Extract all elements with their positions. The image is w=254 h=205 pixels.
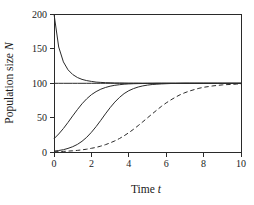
y-tick-label: 50 bbox=[37, 112, 47, 123]
y-tick-label: 100 bbox=[32, 78, 47, 89]
y-axis-title: Population sizeN bbox=[3, 41, 16, 124]
x-tick-label: 10 bbox=[236, 158, 246, 169]
y-tick-label: 150 bbox=[32, 43, 47, 54]
chart-series bbox=[54, 14, 241, 152]
x-axis-title: Timet bbox=[131, 183, 162, 195]
x-tick-label: 8 bbox=[201, 158, 206, 169]
y-axis-title-text: Population size bbox=[3, 53, 16, 124]
population-growth-chart: 050100150200 0246810 Population sizeN Ti… bbox=[0, 0, 254, 205]
series-line-2 bbox=[54, 83, 241, 138]
x-axis-title-text: Time bbox=[131, 183, 155, 195]
y-tick-label: 0 bbox=[42, 147, 47, 158]
x-tick-label: 4 bbox=[126, 158, 131, 169]
y-tick-label: 200 bbox=[32, 9, 47, 20]
x-tick-label: 6 bbox=[164, 158, 169, 169]
x-axis-ticks: 0246810 bbox=[52, 153, 247, 169]
chart-canvas: 050100150200 0246810 Population sizeN Ti… bbox=[0, 0, 254, 205]
x-tick-label: 2 bbox=[89, 158, 94, 169]
x-tick-label: 0 bbox=[52, 158, 57, 169]
y-axis-title-variable: N bbox=[3, 41, 15, 51]
x-axis-title-variable: t bbox=[158, 183, 162, 195]
series-line-0 bbox=[54, 14, 241, 83]
y-axis-ticks: 050100150200 bbox=[32, 9, 54, 159]
